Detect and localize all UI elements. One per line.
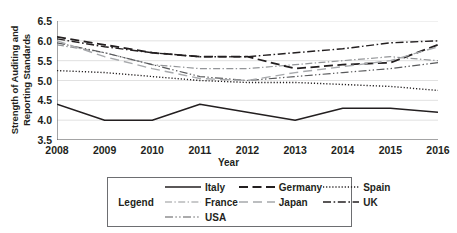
legend-swatch-spain — [322, 182, 360, 192]
x-tick-label: 2012 — [225, 144, 271, 156]
y-tick-label: 5.5 — [26, 56, 52, 66]
legend-label: Germany — [279, 182, 322, 193]
x-tick-label: 2015 — [367, 144, 413, 156]
y-tick-label: 5.0 — [26, 76, 52, 86]
y-tick-label: 4.5 — [26, 95, 52, 105]
series-line-germany — [57, 37, 438, 69]
legend-swatch-france — [164, 197, 202, 207]
legend-swatch-italy — [164, 182, 202, 192]
plot-area — [57, 21, 438, 140]
series-canvas — [57, 21, 438, 140]
x-tick-label: 2010 — [129, 144, 175, 156]
legend-label: Italy — [205, 182, 225, 193]
x-tick-label: 2016 — [415, 144, 457, 156]
legend-item-japan[interactable]: Japan — [238, 195, 322, 210]
legend-swatch-usa — [164, 212, 202, 222]
x-axis-title: Year — [0, 157, 457, 168]
legend-item-germany[interactable]: Germany — [238, 180, 322, 195]
legend-swatch-uk — [322, 197, 360, 207]
series-line-uk — [57, 39, 438, 57]
legend-label: France — [205, 197, 238, 208]
legend-item-france[interactable]: France — [164, 195, 238, 210]
legend-title: Legend — [108, 197, 164, 208]
y-tick-label: 4.0 — [26, 115, 52, 125]
legend-label: Japan — [279, 197, 308, 208]
chart-container: Strength of Auditing and Reporting Stand… — [0, 0, 457, 233]
legend-label: UK — [363, 197, 377, 208]
legend-label: USA — [205, 212, 226, 223]
legend-item-usa[interactable]: USA — [164, 210, 238, 225]
x-tick-label: 2014 — [320, 144, 366, 156]
x-tick-label: 2008 — [34, 144, 80, 156]
legend-entries: ItalyGermanySpainFranceJapanUKUSA — [164, 180, 390, 225]
x-tick-label: 2009 — [82, 144, 128, 156]
y-tick-label: 6.5 — [26, 16, 52, 26]
series-line-italy — [57, 104, 438, 120]
legend-item-spain[interactable]: Spain — [322, 180, 390, 195]
legend: Legend ItalyGermanySpainFranceJapanUKUSA — [107, 177, 352, 227]
y-tick-label: 6.0 — [26, 36, 52, 46]
legend-item-uk[interactable]: UK — [322, 195, 390, 210]
legend-label: Spain — [363, 182, 390, 193]
x-tick-label: 2011 — [177, 144, 223, 156]
legend-item-italy[interactable]: Italy — [164, 180, 238, 195]
legend-swatch-germany — [238, 182, 276, 192]
legend-swatch-japan — [238, 197, 276, 207]
x-tick-label: 2013 — [272, 144, 318, 156]
